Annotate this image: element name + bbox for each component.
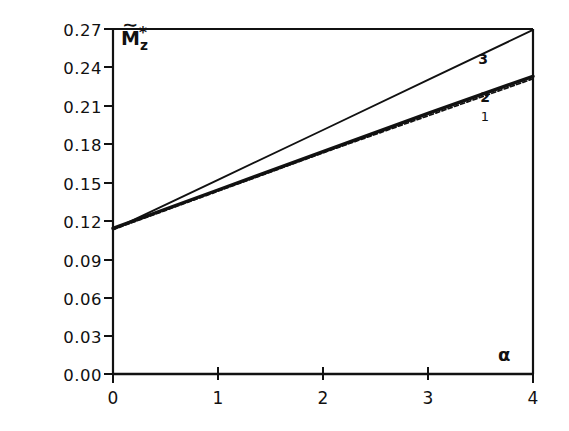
plot-area <box>0 0 569 431</box>
data-line-1 <box>113 79 533 230</box>
axis-frame <box>113 29 533 374</box>
data-series-group <box>113 30 533 230</box>
y-axis-ticks <box>104 29 113 374</box>
chart-figure: 0.27 0.24 0.21 0.18 0.15 0.12 0.09 0.06 … <box>0 0 569 431</box>
data-line-3 <box>113 30 533 230</box>
